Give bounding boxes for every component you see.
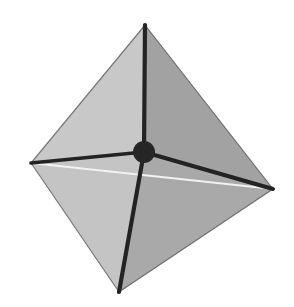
center-vertex-marker-group [133, 141, 155, 163]
octahedron-canvas [0, 0, 294, 307]
center-vertex-dot [133, 141, 155, 163]
edge-top-to-center [144, 25, 145, 152]
octahedron-figure [0, 0, 294, 307]
